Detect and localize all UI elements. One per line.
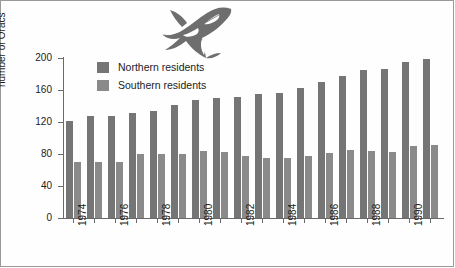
y-tick-label: 0: [1, 213, 52, 223]
y-tick-label: 40: [1, 181, 52, 191]
orca-whale-illustration: [153, 3, 249, 63]
x-tick: [367, 219, 368, 223]
x-tick-label: 1978: [162, 204, 172, 226]
bar-northern: [255, 94, 262, 218]
bar-northern: [234, 97, 241, 218]
y-tick-label: 80: [1, 149, 52, 159]
bar-northern: [213, 98, 220, 218]
bar-group: [108, 58, 123, 218]
x-tick-label: 1984: [288, 204, 298, 226]
bar-southern: [137, 154, 144, 218]
bar-northern: [276, 93, 283, 218]
bar-group: [192, 58, 207, 218]
bar-northern: [87, 116, 94, 218]
bar-group: [402, 58, 417, 218]
bar-northern: [129, 113, 136, 218]
bar-southern: [95, 162, 102, 218]
x-tick: [94, 219, 95, 223]
x-tick-label: 1982: [246, 204, 256, 226]
bar-group: [381, 58, 396, 218]
x-tick: [220, 219, 221, 223]
x-tick: [430, 219, 431, 223]
x-tick: [388, 219, 389, 223]
bar-northern: [150, 111, 157, 218]
x-tick: [325, 219, 326, 223]
bar-group: [339, 58, 354, 218]
chart-frame: Northern residents Southern residents 04…: [0, 0, 454, 267]
bar-northern: [171, 105, 178, 218]
x-tick: [262, 219, 263, 223]
y-tick: [58, 186, 63, 187]
x-tick: [346, 219, 347, 223]
bar-northern: [318, 82, 325, 218]
bar-group: [255, 58, 270, 218]
bar-southern: [389, 152, 396, 218]
bar-group: [318, 58, 333, 218]
x-tick: [136, 219, 137, 223]
bar-group: [66, 58, 81, 218]
y-tick: [58, 90, 63, 91]
y-tick: [58, 122, 63, 123]
y-axis-title: number of Oracs: [0, 0, 7, 87]
bar-northern: [66, 121, 73, 218]
x-tick: [73, 219, 74, 223]
bar-northern: [423, 59, 430, 218]
bar-southern: [305, 156, 312, 218]
x-tick-label: 1976: [120, 204, 130, 226]
x-tick: [241, 219, 242, 223]
bar-southern: [179, 154, 186, 218]
x-tick: [199, 219, 200, 223]
x-tick-label: 1986: [330, 204, 340, 226]
bar-southern: [221, 152, 228, 218]
bar-northern: [192, 100, 199, 218]
bar-group: [276, 58, 291, 218]
bar-group: [171, 58, 186, 218]
bar-group: [297, 58, 312, 218]
y-tick-label: 120: [1, 117, 52, 127]
x-tick: [178, 219, 179, 223]
plot-area: [64, 58, 442, 218]
x-tick-label: 1990: [414, 204, 424, 226]
bar-group: [213, 58, 228, 218]
y-tick: [58, 154, 63, 155]
y-tick-label: 200: [1, 53, 52, 63]
bar-northern: [402, 62, 409, 218]
bar-northern: [108, 116, 115, 218]
bar-northern: [297, 88, 304, 218]
bar-group: [423, 58, 438, 218]
bar-southern: [347, 150, 354, 218]
bar-southern: [431, 145, 438, 218]
y-tick-label: 160: [1, 85, 52, 95]
x-tick-label: 1980: [204, 204, 214, 226]
bar-group: [234, 58, 249, 218]
bar-northern: [339, 76, 346, 218]
bar-northern: [381, 69, 388, 218]
bar-northern: [360, 70, 367, 218]
x-tick-label: 1974: [78, 204, 88, 226]
x-tick-label: 1988: [372, 204, 382, 226]
x-tick: [283, 219, 284, 223]
bar-group: [150, 58, 165, 218]
bar-group: [360, 58, 375, 218]
y-tick: [58, 218, 63, 219]
bar-group: [129, 58, 144, 218]
bar-southern: [263, 158, 270, 218]
x-tick: [115, 219, 116, 223]
x-tick: [409, 219, 410, 223]
x-tick: [304, 219, 305, 223]
x-tick: [157, 219, 158, 223]
bar-group: [87, 58, 102, 218]
y-tick: [58, 58, 63, 59]
